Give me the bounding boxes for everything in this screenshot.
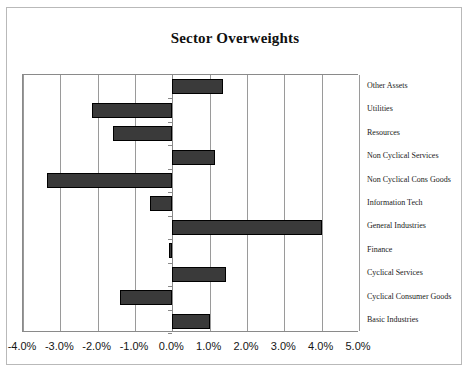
category-tick bbox=[168, 216, 172, 217]
category-tick bbox=[168, 333, 172, 334]
bar-cyclical-services bbox=[172, 267, 226, 282]
bar-general-industries bbox=[172, 220, 321, 235]
category-tick bbox=[168, 192, 172, 193]
bar-information-tech bbox=[150, 196, 172, 211]
x-tick-label: -1.0% bbox=[120, 340, 149, 352]
x-tick-label: 3.0% bbox=[271, 340, 296, 352]
category-tick bbox=[168, 263, 172, 264]
x-axis-tick-labels: -4.0%-3.0%-2.0%-1.0%0.0%1.0%2.0%3.0%4.0%… bbox=[7, 340, 463, 360]
gridline-5.0% bbox=[359, 75, 360, 331]
category-tick bbox=[168, 286, 172, 287]
category-label-non-cyclical-cons-goods: Non Cyclical Cons Goods bbox=[367, 175, 451, 184]
bar-row bbox=[23, 263, 358, 286]
bar-utilities bbox=[92, 103, 172, 118]
category-tick bbox=[168, 310, 172, 311]
category-label-information-tech: Information Tech bbox=[367, 198, 423, 207]
bar-resources bbox=[113, 126, 173, 141]
bar-basic-industries bbox=[172, 314, 209, 329]
bar-row bbox=[23, 145, 358, 168]
category-label-cyclical-consumer-goods: Cyclical Consumer Goods bbox=[367, 292, 451, 301]
bar-row bbox=[23, 286, 358, 309]
bar-cyclical-consumer-goods bbox=[120, 290, 172, 305]
category-label-non-cyclical-services: Non Cyclical Services bbox=[367, 151, 439, 160]
category-tick bbox=[168, 145, 172, 146]
plot-area bbox=[22, 74, 358, 332]
bar-non-cyclical-cons-goods bbox=[47, 173, 172, 188]
category-tick bbox=[168, 122, 172, 123]
bar-row bbox=[23, 169, 358, 192]
category-label-other-assets: Other Assets bbox=[367, 81, 408, 90]
x-tick-label: -3.0% bbox=[45, 340, 74, 352]
x-tick-label: -2.0% bbox=[82, 340, 111, 352]
chart-title: Sector Overweights bbox=[7, 30, 463, 47]
x-tick-label: 1.0% bbox=[196, 340, 221, 352]
bar-row bbox=[23, 216, 358, 239]
category-label-utilities: Utilities bbox=[367, 104, 393, 113]
category-label-general-industries: General Industries bbox=[367, 221, 426, 230]
bar-row bbox=[23, 122, 358, 145]
bar-finance bbox=[169, 243, 173, 258]
x-tick-label: 0.0% bbox=[159, 340, 184, 352]
category-label-basic-industries: Basic Industries bbox=[367, 315, 418, 324]
bar-row bbox=[23, 98, 358, 121]
category-label-finance: Finance bbox=[367, 245, 392, 254]
category-tick bbox=[168, 98, 172, 99]
bar-row bbox=[23, 192, 358, 215]
category-tick bbox=[168, 169, 172, 170]
bar-row bbox=[23, 310, 358, 333]
x-tick-label: 2.0% bbox=[233, 340, 258, 352]
category-label-cyclical-services: Cyclical Services bbox=[367, 268, 423, 277]
x-tick-label: 5.0% bbox=[345, 340, 370, 352]
chart-frame: Sector Overweights Other AssetsUtilities… bbox=[6, 7, 462, 365]
x-tick-label: 4.0% bbox=[308, 340, 333, 352]
category-label-resources: Resources bbox=[367, 128, 400, 137]
bar-row bbox=[23, 75, 358, 98]
bar-row bbox=[23, 239, 358, 262]
bar-non-cyclical-services bbox=[172, 150, 215, 165]
bar-other-assets bbox=[172, 79, 222, 94]
category-tick bbox=[168, 239, 172, 240]
x-tick-label: -4.0% bbox=[8, 340, 37, 352]
